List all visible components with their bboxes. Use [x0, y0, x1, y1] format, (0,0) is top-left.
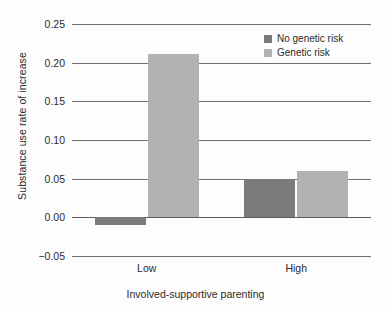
y-axis-tick-label: 0.00 — [45, 211, 65, 223]
x-axis-title: Involved-supportive parenting — [0, 288, 391, 300]
bar — [95, 217, 146, 225]
y-axis-title-text: Substance use rate of increase — [16, 52, 28, 200]
chart-legend: No genetic risk Genetic risk — [264, 33, 343, 61]
y-axis-tick-label: 0.20 — [45, 57, 65, 69]
gridline: 0.25 — [72, 24, 371, 25]
gridline: 0.15 — [72, 101, 371, 102]
legend-label-no-genetic-risk: No genetic risk — [277, 33, 343, 44]
gridline: 0.10 — [72, 140, 371, 141]
y-axis-title: Substance use rate of increase — [11, 0, 33, 252]
legend-item: No genetic risk — [264, 33, 343, 44]
bar — [297, 171, 348, 217]
bar — [148, 54, 199, 217]
x-axis-tick-label: Low — [137, 262, 156, 274]
x-axis-tick-label: High — [285, 262, 307, 274]
legend-label-genetic-risk: Genetic risk — [277, 47, 330, 58]
legend-swatch-no-genetic-risk — [264, 35, 272, 43]
y-axis-tick-label: 0.10 — [45, 134, 65, 146]
y-axis-tick-label: 0.05 — [45, 173, 65, 185]
y-axis-tick-label: 0.25 — [45, 18, 65, 30]
y-axis-tick-label: 0.15 — [45, 95, 65, 107]
gridline: −0.05 — [72, 256, 371, 257]
y-axis-tick-label: −0.05 — [38, 250, 65, 262]
bar-chart-figure: Substance use rate of increase 0.250.200… — [0, 0, 391, 309]
legend-swatch-genetic-risk — [264, 49, 272, 57]
gridline: 0.20 — [72, 63, 371, 64]
bar — [244, 179, 295, 218]
legend-item: Genetic risk — [264, 47, 343, 58]
